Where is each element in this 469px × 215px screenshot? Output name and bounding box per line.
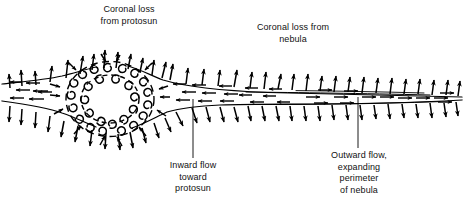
protosun-inflow-arrows [50,54,170,146]
label-coronal-loss-nebula: Coronal loss fromnebula [228,22,358,45]
label-outward-flow: Outward flow,expandingperimeterof nebula [294,150,424,196]
label-inward-flow: Inward flowtowardprotosun [128,160,258,195]
coronal-loss-up-arrows [9,50,460,96]
label-coronal-loss-protosun: Coronal lossfrom protosun [64,4,194,27]
